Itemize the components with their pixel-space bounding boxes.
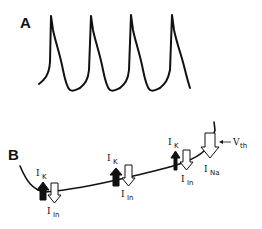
iin-label-1: I bbox=[47, 206, 51, 216]
iin-arrow-hollow-icon bbox=[48, 183, 61, 203]
panel-b-label: B bbox=[8, 146, 19, 163]
threshold-marker: V th bbox=[219, 137, 247, 150]
ik-arrow-filled-icon bbox=[171, 151, 180, 170]
action-potential-trace bbox=[39, 15, 190, 91]
svg-text:K: K bbox=[42, 173, 47, 181]
iin-label-2: I bbox=[121, 189, 125, 199]
ik-label-3: I bbox=[168, 137, 172, 147]
ina-group: I Na bbox=[201, 133, 220, 177]
ik-label-1: I bbox=[36, 168, 40, 178]
ina-label: I bbox=[204, 164, 208, 174]
panel-a-label: A bbox=[20, 14, 31, 31]
ik-label-2: I bbox=[107, 153, 111, 163]
svg-text:In: In bbox=[127, 194, 134, 202]
current-pair-2: I K I In bbox=[107, 153, 135, 202]
arrowhead-icon bbox=[219, 140, 223, 144]
current-pair-3: I K I In bbox=[168, 137, 194, 187]
svg-text:th: th bbox=[240, 142, 247, 150]
svg-text:K: K bbox=[113, 158, 118, 166]
svg-text:K: K bbox=[174, 142, 179, 150]
vth-label: V bbox=[232, 137, 240, 147]
ik-arrow-filled-icon bbox=[110, 168, 122, 186]
iin-label-3: I bbox=[181, 174, 185, 184]
current-pair-1: I K I In bbox=[36, 168, 61, 219]
svg-text:In: In bbox=[53, 211, 60, 219]
svg-text:In: In bbox=[187, 179, 194, 187]
svg-text:Na: Na bbox=[210, 169, 220, 177]
ina-arrow-hollow-icon bbox=[201, 133, 219, 158]
figure: A B I K I In I K I In I K I In I Na bbox=[0, 0, 262, 229]
